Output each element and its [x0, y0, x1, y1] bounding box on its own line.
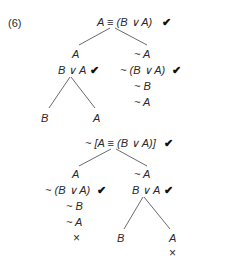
- tree1-branch-left-leaf: B: [41, 112, 48, 124]
- tree1-right-line4: ~ A: [134, 96, 150, 108]
- tree2-branch-right-leaf: A: [169, 232, 176, 244]
- check-icon: ✔: [162, 16, 171, 28]
- tree2-left-line3: ~ B: [66, 200, 83, 212]
- check-icon: ✔: [172, 64, 181, 76]
- check-icon: ✔: [164, 137, 173, 149]
- tree2-root-formula: ~ [A ≡ (B ∨ A)]: [85, 137, 156, 149]
- tree2-disj-left-branch: [124, 197, 143, 229]
- tree2-left-line2: ~ (B ∨ A): [45, 184, 90, 196]
- tree1-disj-right-branch: [71, 77, 95, 108]
- tree2-disj-right-branch: [144, 197, 170, 229]
- tree1-left-line1: A: [72, 48, 79, 60]
- tree1-right-line3: ~ B: [134, 80, 151, 92]
- tree1-right-line1: ~ A: [134, 48, 150, 60]
- check-icon: ✔: [97, 184, 106, 196]
- tree2-root-left-branch: [79, 149, 111, 166]
- tree1-root-left-branch: [79, 28, 110, 45]
- check-icon: ✔: [164, 184, 173, 196]
- tree1-right-line2: ~ (B ∨ A): [120, 64, 165, 76]
- tree1-left-line2: B ∨ A: [58, 64, 86, 76]
- close-x-icon: ×: [73, 232, 80, 244]
- tree2-right-line1: ~ A: [134, 168, 150, 180]
- tree1-root-formula: A ≡ (B ∨ A): [97, 16, 152, 28]
- tree2-left-line1: A: [72, 168, 79, 180]
- close-x-icon: ×: [169, 247, 176, 259]
- tree2-branch-left-leaf: B: [117, 232, 124, 244]
- exercise-label: (6): [8, 17, 21, 29]
- tree1-branch-right-leaf: A: [93, 112, 100, 124]
- tree2-left-line4: ~ A: [66, 216, 82, 228]
- tree1-disj-left-branch: [49, 77, 70, 108]
- tree-branch-lines: [0, 0, 229, 265]
- tree2-right-line2: B ∨ A: [132, 184, 160, 196]
- tree1-root-right-branch: [115, 28, 147, 45]
- check-icon: ✔: [90, 64, 99, 76]
- tree2-root-right-branch: [116, 149, 147, 166]
